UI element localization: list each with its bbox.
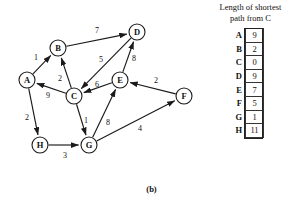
distance-table-title-line1: Length of shortest xyxy=(198,2,303,13)
graph-node-e[interactable]: E xyxy=(112,72,128,88)
distance-row-value-d: 9 xyxy=(246,69,264,83)
distance-row-key-a: A xyxy=(224,29,246,43)
edge-a-h xyxy=(29,88,38,134)
distance-row-key-h: H xyxy=(224,124,246,138)
graph-node-label-g: G xyxy=(86,140,93,150)
table-row: C0 xyxy=(224,56,264,70)
table-row: F5 xyxy=(224,96,264,110)
distance-table-title: Length of shortest path from C xyxy=(198,2,303,23)
distance-row-key-g: G xyxy=(224,110,246,124)
edge-weight-a-b: 1 xyxy=(34,53,38,62)
distance-row-value-f: 5 xyxy=(246,96,264,110)
table-row: D9 xyxy=(224,69,264,83)
graph-node-h[interactable]: H xyxy=(32,137,48,153)
edge-weight-a-h: 2 xyxy=(25,113,29,122)
edge-weight-e-d: 8 xyxy=(132,54,136,63)
nodes-layer: ABCDEFGH xyxy=(19,24,192,153)
graph-node-label-h: H xyxy=(37,140,44,150)
distance-table-title-line2: path from C xyxy=(198,13,303,24)
edge-g-e xyxy=(93,89,116,137)
edge-weight-d-c: 5 xyxy=(99,55,103,64)
edge-weight-e-c: 6 xyxy=(95,80,99,89)
distance-row-key-b: B xyxy=(224,42,246,56)
distance-row-value-h: 11 xyxy=(246,124,264,138)
distance-row-value-e: 7 xyxy=(246,83,264,97)
graph-svg: 1275869213842 ABCDEFGH xyxy=(0,0,200,180)
distance-row-value-g: 1 xyxy=(246,110,264,124)
distance-table-panel: Length of shortest path from C A9B2C0D9E… xyxy=(198,0,303,180)
table-row: B2 xyxy=(224,42,264,56)
graph-node-c[interactable]: C xyxy=(66,88,82,104)
distance-row-key-c: C xyxy=(224,56,246,70)
edge-c-a xyxy=(37,83,66,93)
edge-c-b xyxy=(61,58,71,88)
edge-b-d xyxy=(66,34,126,46)
graph-node-a[interactable]: A xyxy=(19,72,35,88)
figure-caption: (b) xyxy=(0,184,303,194)
edge-f-e xyxy=(130,83,176,94)
graph-node-label-b: B xyxy=(55,43,61,53)
distance-row-key-d: D xyxy=(224,69,246,83)
graph-node-label-f: F xyxy=(181,91,186,101)
table-row: E7 xyxy=(224,83,264,97)
table-row: G1 xyxy=(224,110,264,124)
edge-weight-g-e: 8 xyxy=(106,118,110,127)
graph-node-label-a: A xyxy=(24,75,31,85)
edge-weight-c-a: 9 xyxy=(46,91,50,100)
distance-row-value-b: 2 xyxy=(246,42,264,56)
distance-row-key-e: E xyxy=(224,83,246,97)
graph-node-g[interactable]: G xyxy=(81,137,97,153)
graph-diagram: 1275869213842 ABCDEFGH xyxy=(0,0,200,180)
edge-weight-h-g: 3 xyxy=(63,151,67,160)
distance-row-value-c: 0 xyxy=(246,56,264,70)
graph-node-d[interactable]: D xyxy=(129,24,145,40)
graph-node-f[interactable]: F xyxy=(176,88,192,104)
edge-weight-c-g: 1 xyxy=(84,116,88,125)
graph-node-label-c: C xyxy=(71,91,77,101)
figure-b: 1275869213842 ABCDEFGH Length of shortes… xyxy=(0,0,303,201)
table-row: H11 xyxy=(224,124,264,138)
graph-node-label-d: D xyxy=(134,27,140,37)
distance-row-key-f: F xyxy=(224,96,246,110)
graph-node-b[interactable]: B xyxy=(50,40,66,56)
edge-weight-c-b: 2 xyxy=(58,74,62,83)
edge-weight-g-f: 4 xyxy=(138,124,142,133)
distance-row-value-a: 9 xyxy=(246,29,264,43)
edge-weight-b-d: 7 xyxy=(95,26,99,35)
distance-table: A9B2C0D9E7F5G1H11 xyxy=(224,28,264,138)
distance-table-body: A9B2C0D9E7F5G1H11 xyxy=(224,29,264,138)
edge-weight-f-e: 2 xyxy=(154,76,158,85)
graph-node-label-e: E xyxy=(117,75,123,85)
table-row: A9 xyxy=(224,29,264,43)
